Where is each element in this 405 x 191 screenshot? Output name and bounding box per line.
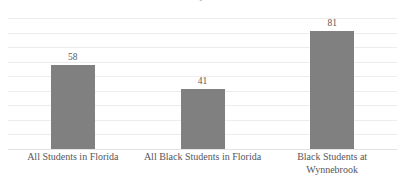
bar-group[interactable]: 58	[51, 18, 95, 149]
category-axis-labels: All Students in FloridaAll Black Student…	[8, 151, 397, 191]
bar-group[interactable]: 81	[310, 18, 354, 149]
category-label-line: Black Students at	[267, 151, 397, 164]
category-label-line: All Students in Florida	[8, 151, 138, 164]
category-label: All Black Students in Florida	[138, 151, 268, 164]
category-label: All Students in Florida	[8, 151, 138, 164]
plot-area: 584181	[8, 18, 397, 149]
bar-chart: y 584181 All Students in FloridaAll Blac…	[0, 0, 405, 191]
bar-series: 584181	[8, 18, 397, 149]
bar[interactable]	[51, 65, 95, 149]
bar[interactable]	[310, 31, 354, 149]
category-label-line: All Black Students in Florida	[138, 151, 268, 164]
bar-value-label: 41	[159, 76, 247, 87]
bar-value-label: 58	[29, 52, 117, 63]
bar-value-label: 81	[288, 18, 376, 29]
bar[interactable]	[181, 89, 225, 149]
bar-group[interactable]: 41	[181, 18, 225, 149]
chart-title-text: y	[0, 0, 405, 2]
chart-title-clipped: y	[0, 0, 405, 12]
category-label: Black Students atWynnebrook	[267, 151, 397, 176]
axis-baseline	[8, 149, 397, 150]
category-label-line: Wynnebrook	[267, 164, 397, 177]
